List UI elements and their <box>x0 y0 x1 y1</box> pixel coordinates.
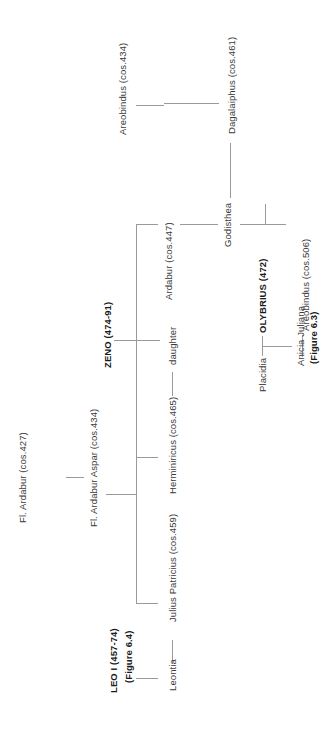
person-areobindus-434: Areobindus (cos.434) <box>117 43 128 135</box>
person-julius-patricius: Julius Patricius (cos.459) <box>167 514 178 622</box>
connector-aspar-bracket <box>106 494 136 495</box>
bracket-herminiricus <box>136 457 158 458</box>
aspar-children-bracket <box>136 224 137 603</box>
person-ardabur-447: Ardabur (cos.447) <box>163 222 174 300</box>
person-godisthea: Godisthea <box>222 203 233 247</box>
person-placidia: Placidia <box>257 358 268 392</box>
person-leo: LEO I (457-74) <box>108 628 119 693</box>
person-fl-ardabur-427: Fl. Ardabur (cos.427) <box>17 432 28 523</box>
person-zeno: ZENO (474-91) <box>102 302 113 368</box>
connector-ardabur-godisthea <box>180 224 218 225</box>
connector-areobindus434 <box>136 105 164 106</box>
bracket-top-ardabur <box>136 224 158 225</box>
person-aspar: Fl. Ardabur Aspar (cos.434) <box>88 409 99 527</box>
marriage-daughter-herminiricus <box>172 372 173 396</box>
person-olybrius: OLYBRIUS (472) <box>257 259 268 333</box>
person-anicia-juliana-ref: (Figure 6.3) <box>308 312 319 364</box>
person-leontia: Leontia <box>167 659 178 691</box>
person-anicia-juliana: Anicia Juliana <box>295 306 306 366</box>
connector-zeno-daughter <box>114 340 160 341</box>
connector-to-dagalaiphus <box>164 103 219 104</box>
marriage-dagalaiphus-godisthea <box>230 143 231 198</box>
connector-ardabur427-aspar <box>66 477 84 478</box>
connector-godisthea-areobindus506 <box>240 224 286 225</box>
connector-olybrius-anicia <box>262 346 292 347</box>
bracket-julius <box>136 603 158 604</box>
person-herminiricus: Herminiricus (cos.465) <box>167 397 178 494</box>
person-dagalaiphus: Dagalaiphus (cos.461) <box>226 37 237 134</box>
person-leo-ref: (Figure 6.4) <box>123 631 134 683</box>
person-daughter: daughter <box>167 327 178 365</box>
connector-leo-leontia <box>136 678 158 679</box>
connector-godisthea-vert <box>265 204 266 224</box>
